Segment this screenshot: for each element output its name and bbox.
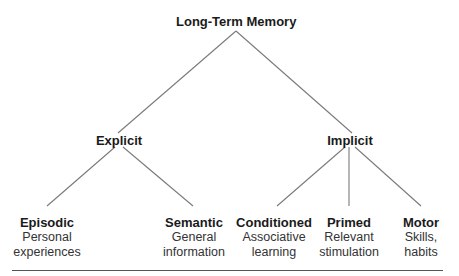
node-implicit: Implicit: [310, 133, 390, 148]
node-description-line: habits: [396, 245, 446, 260]
edge-root-implicit: [236, 31, 352, 133]
node-explicit: Explicit: [79, 133, 159, 148]
node-description-line: Personal: [12, 230, 82, 245]
node-description-line: experiences: [12, 245, 82, 260]
node-motor: Motor Skills, habits: [396, 215, 446, 260]
node-title: Semantic: [159, 215, 229, 230]
node-description-line: General: [159, 230, 229, 245]
node-long-term-memory: Long-Term Memory: [176, 14, 296, 29]
node-primed: Primed Relevant stimulation: [314, 215, 384, 260]
node-description-line: Skills,: [396, 230, 446, 245]
node-title: Motor: [396, 215, 446, 230]
node-title: Long-Term Memory: [176, 14, 296, 29]
edge-explicit-semantic: [123, 147, 193, 206]
node-title: Implicit: [310, 133, 390, 148]
node-episodic: Episodic Personal experiences: [12, 215, 82, 260]
edge-explicit-episodic: [47, 147, 115, 206]
edge-implicit-conditioned: [277, 147, 345, 206]
node-conditioned: Conditioned Associative learning: [233, 215, 315, 260]
edge-implicit-motor: [355, 147, 421, 206]
node-title: Explicit: [79, 133, 159, 148]
node-semantic: Semantic General information: [159, 215, 229, 260]
node-description-line: stimulation: [314, 245, 384, 260]
edge-root-explicit: [118, 31, 236, 133]
node-title: Episodic: [12, 215, 82, 230]
node-description-line: Relevant: [314, 230, 384, 245]
node-title: Primed: [314, 215, 384, 230]
node-description-line: information: [159, 245, 229, 260]
node-description-line: learning: [233, 245, 315, 260]
bottom-divider: [12, 270, 443, 271]
node-description-line: Associative: [233, 230, 315, 245]
node-title: Conditioned: [233, 215, 315, 230]
